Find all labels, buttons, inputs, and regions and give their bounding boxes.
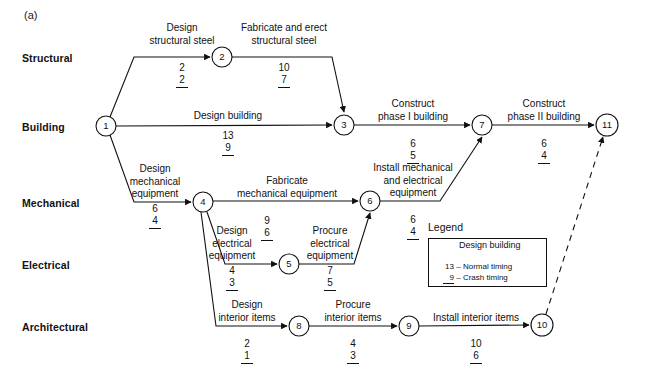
line: Design — [187, 299, 307, 312]
crash-timing: 4 — [407, 226, 419, 240]
legend-crash-value: 9 — [443, 273, 454, 284]
line: structural steel — [204, 35, 364, 48]
legend-normal-text: – Normal timing — [456, 262, 512, 271]
node-label-2: 2 — [210, 52, 234, 62]
activity-label-design-mechanical-equipment: Design mechanical equipment — [95, 163, 215, 201]
normal-timing: 6 — [393, 214, 433, 226]
activity-label-design-building: Design building — [148, 110, 308, 123]
line: phase I building — [343, 111, 483, 124]
duration-design-mechanical-equipment: 6 4 — [135, 203, 175, 229]
legend-crash-text: – Crash timing — [456, 273, 508, 282]
line: interior items — [293, 312, 413, 325]
normal-timing: 4 — [333, 338, 373, 350]
line: equipment — [280, 250, 380, 263]
duration-design-building: 13 9 — [208, 130, 248, 156]
crash-timing: 4 — [149, 215, 161, 229]
line: equipment — [343, 187, 483, 200]
node-label-1: 1 — [94, 121, 118, 131]
duration-procure-electrical-equipment: 7 5 — [310, 265, 350, 291]
line: Install interior items — [416, 312, 536, 325]
normal-timing: 10 — [456, 338, 496, 350]
duration-fabricate-erect-structural-steel: 10 7 — [264, 62, 304, 88]
line: electrical — [280, 238, 380, 251]
crash-timing: 4 — [538, 150, 550, 164]
duration-install-interior-items: 10 6 — [456, 338, 496, 364]
duration-procure-interior-items: 4 3 — [333, 338, 373, 364]
line: interior items — [187, 312, 307, 325]
legend-normal-value: 13 — [443, 262, 454, 271]
normal-timing: 4 — [212, 265, 252, 277]
legend-title: Legend — [428, 221, 463, 233]
legend-normal-timing: 13 – Normal timing — [443, 262, 512, 271]
crash-timing: 5 — [407, 150, 419, 164]
duration-construct-phase-i-building: 6 5 — [393, 138, 433, 164]
duration-fabricate-mechanical-equipment: 9 6 — [247, 215, 287, 241]
crash-timing: 6 — [470, 350, 482, 364]
normal-timing: 6 — [524, 138, 564, 150]
crash-timing: 5 — [324, 277, 336, 291]
activity-label-procure-electrical-equipment: Procure electrical equipment — [280, 225, 380, 263]
activity-label-fabricate-erect-structural-steel: Fabricate and erect structural steel — [204, 22, 364, 47]
line: Procure — [280, 225, 380, 238]
line: and electrical — [343, 175, 483, 188]
crash-timing: 9 — [222, 142, 234, 156]
line: Design building — [148, 110, 308, 123]
normal-timing: 7 — [310, 265, 350, 277]
crash-timing: 2 — [176, 74, 188, 88]
crash-timing: 7 — [278, 74, 290, 88]
duration-design-interior-items: 2 1 — [227, 338, 267, 364]
legend-activity-label: Design building — [459, 240, 521, 250]
activity-label-construct-phase-i-building: Construct phase I building — [343, 98, 483, 123]
line: Fabricate and erect — [204, 22, 364, 35]
activity-label-procure-interior-items: Procure interior items — [293, 299, 413, 324]
line: Construct — [474, 98, 614, 111]
line: mechanical — [95, 176, 215, 189]
activity-label-construct-phase-ii-building: Construct phase II building — [474, 98, 614, 123]
duration-install-mechanical-electrical-equipment: 6 4 — [393, 214, 433, 240]
activity-label-design-interior-items: Design interior items — [187, 299, 307, 324]
line: equipment — [95, 188, 215, 201]
duration-construct-phase-ii-building: 6 4 — [524, 138, 564, 164]
crash-timing: 6 — [261, 227, 273, 241]
crash-timing: 3 — [226, 277, 238, 291]
normal-timing: 2 — [162, 62, 202, 74]
line: Construct — [343, 98, 483, 111]
line: phase II building — [474, 111, 614, 124]
line: Design — [95, 163, 215, 176]
normal-timing: 9 — [247, 215, 287, 227]
duration-design-electrical-equipment: 4 3 — [212, 265, 252, 291]
normal-timing: 2 — [227, 338, 267, 350]
normal-timing: 6 — [393, 138, 433, 150]
activity-label-install-mechanical-electrical-equipment: Install mechanical and electrical equipm… — [343, 162, 483, 200]
edge-9-10 — [419, 325, 529, 326]
figure-canvas: (a) Structural Building Mechanical Elect… — [0, 0, 649, 383]
line: equipment — [182, 250, 282, 263]
normal-timing: 10 — [264, 62, 304, 74]
normal-timing: 6 — [135, 203, 175, 215]
crash-timing: 3 — [347, 350, 359, 364]
edge-1-3 — [116, 125, 332, 126]
normal-timing: 13 — [208, 130, 248, 142]
activity-label-install-interior-items: Install interior items — [416, 312, 536, 325]
legend-crash-timing: 9 – Crash timing — [443, 273, 508, 284]
crash-timing: 1 — [241, 350, 253, 364]
duration-design-structural-steel: 2 2 — [162, 62, 202, 88]
line: Procure — [293, 299, 413, 312]
